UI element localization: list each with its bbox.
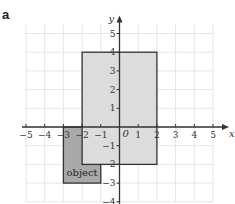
y-tick-label: −4 [102, 197, 116, 204]
x-tick-label: 4 [191, 130, 197, 140]
x-tick-label: 5 [210, 130, 216, 140]
y-tick-label: 3 [110, 66, 116, 76]
y-tick-label: 4 [110, 47, 116, 57]
x-tick-label: −5 [19, 130, 33, 140]
x-tick-label: −3 [57, 130, 71, 140]
x-tick-label: −1 [94, 130, 107, 140]
y-tick-label: 1 [110, 103, 116, 113]
x-tick-label: 1 [135, 130, 141, 140]
y-tick-label: 5 [110, 29, 116, 39]
coordinate-grid-diagram: object −5−4−3−2−11234554321−1−2−3−40xy [0, 0, 235, 204]
x-axis-label: x [229, 128, 235, 139]
y-tick-label: 2 [110, 85, 116, 95]
x-tick-label: 3 [173, 130, 179, 140]
x-tick-label: 2 [154, 130, 160, 140]
y-axis-label: y [108, 13, 115, 24]
x-axis-arrow-icon [222, 124, 229, 130]
y-tick-label: −2 [102, 159, 115, 169]
y-tick-label: −1 [102, 141, 115, 151]
y-tick-label: −3 [102, 178, 116, 188]
y-axis-arrow-icon [117, 16, 123, 23]
origin-label: 0 [123, 128, 130, 139]
x-tick-label: −2 [75, 130, 88, 140]
x-tick-label: −4 [38, 130, 52, 140]
object-label: object [67, 167, 98, 178]
